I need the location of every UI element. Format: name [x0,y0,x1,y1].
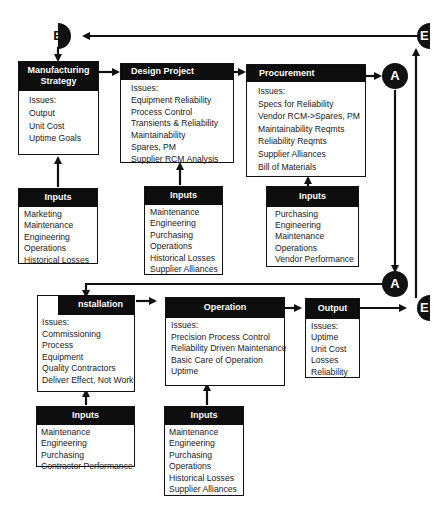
issue-item: Issues: [29,94,92,107]
issue-item: Transients & Reliability [131,118,227,130]
installation-issues: Issues: Commissioning Process Equipment … [38,315,134,389]
installation-title: nstallation [58,295,134,315]
connector-e-bottom-label: E [420,295,432,321]
issue-item: Vendor RCM->Spares, PM [258,110,359,123]
issue-item: Supplier Alliances [258,148,359,161]
input-item: Purchasing [169,450,241,461]
issue-item: Reliability [311,367,356,378]
input-item: Operations [275,243,355,254]
issue-item: Supplier RCM Analysis [131,154,227,166]
operation-box: Operation Issues: Precision Process Cont… [165,297,285,386]
input-item: Engineering [169,438,241,449]
input-item: Operations [24,243,93,254]
output-issues: Issues: Uptime Unit Cost Losses Reliabil… [306,319,359,380]
issue-item: Unit Cost [29,120,92,133]
design-project-inputs-box: Inputs Maintenance Engineering Purchasin… [144,186,223,275]
input-item: Supplier Alliances [169,484,241,495]
issue-item: Basic Care of Operation [171,355,281,367]
issue-item: Issues: [258,85,359,98]
issue-item: Issues: [171,320,281,332]
issue-item: Bill of Materials [258,161,359,174]
input-item: Maintenance [150,207,219,218]
installation-inputs-box: Inputs Maintenance Engineering Purchasin… [36,406,135,467]
issue-item: Specs for Reliability [258,98,359,111]
connector-e-top-label: E [420,23,432,49]
connector-a-mid-label: A [382,271,408,297]
inputs-list: Purchasing Engineering Maintenance Opera… [267,207,358,267]
inputs-title: Inputs [165,407,243,425]
connector-b-label: B [45,23,71,49]
input-item: Purchasing [150,230,219,241]
issue-item: Uptime [171,366,281,378]
output-title: Output [306,299,359,319]
input-item: Historical Losses [150,253,219,264]
manufacturing-strategy-issues: Issues: Output Unit Cost Uptime Goals [19,91,98,148]
issue-item: Issues: [131,83,227,95]
installation-box: nstallation Issues: Commissioning Proces… [37,295,135,392]
input-item: Engineering [24,232,93,243]
input-item: Marketing [24,209,93,220]
input-item: Engineering [41,438,132,449]
manufacturing-strategy-inputs-box: Inputs Marketing Maintenance Engineering… [18,188,98,264]
issue-item: Maintainability [131,130,227,142]
issue-item: Precision Process Control [171,332,281,344]
connector-a-top-label: A [382,63,408,89]
issue-item: Deliver Effect, Not Work [42,375,131,387]
inputs-title: Inputs [267,187,358,207]
operation-issues: Issues: Precision Process Control Reliab… [166,318,284,380]
issue-item: Maintainability Reqmts [258,123,359,136]
issue-item: Issues: [42,317,131,329]
input-item: Engineering [275,220,355,231]
input-item: Operations [169,461,241,472]
issue-item: Process [42,340,131,352]
operation-title: Operation [166,298,284,318]
output-box: Output Issues: Uptime Unit Cost Losses R… [305,298,360,378]
issue-item: Issues: [311,321,356,332]
input-item: Purchasing [41,450,132,461]
input-item: Contractor Performance [41,461,132,472]
input-item: Maintenance [275,231,355,242]
input-item: Supplier Alliances [150,264,219,275]
issue-item: Process Control [131,107,227,119]
issue-item: Uptime [311,332,356,343]
inputs-list: Maintenance Engineering Purchasing Opera… [165,425,243,497]
input-item: Engineering [150,218,219,229]
issue-item: Equipment Reliability [131,95,227,107]
procurement-inputs-box: Inputs Purchasing Engineering Maintenanc… [266,186,359,267]
inputs-title: Inputs [37,407,134,425]
issue-item: Unit Cost [311,344,356,355]
design-project-title: Design Project [121,64,233,80]
manufacturing-strategy-box: Manufacturing Strategy Issues: Output Un… [18,61,99,155]
procurement-title: Procurement [247,65,365,82]
issue-item: Reliability Driven Maintenance [171,343,281,355]
input-item: Maintenance [41,427,132,438]
input-item: Vendor Performance [275,254,355,265]
issue-item: Spares, PM [131,142,227,154]
issue-item: Commissioning [42,329,131,341]
inputs-list: Maintenance Engineering Purchasing Contr… [37,425,134,475]
inputs-list: Maintenance Engineering Purchasing Opera… [145,205,222,277]
procurement-issues: Issues: Specs for Reliability Vendor RCM… [247,82,365,176]
procurement-box: Procurement Issues: Specs for Reliabilit… [246,64,366,177]
issue-item: Reliability Reqmts [258,135,359,148]
issue-item: Equipment [42,352,131,364]
issue-item: Uptime Goals [29,132,92,145]
issue-item: Losses [311,355,356,366]
inputs-list: Marketing Maintenance Engineering Operat… [19,207,97,268]
input-item: Maintenance [169,427,241,438]
input-item: Operations [150,241,219,252]
operation-inputs-box: Inputs Maintenance Engineering Purchasin… [164,406,244,496]
manufacturing-strategy-title: Manufacturing Strategy [19,62,98,91]
issue-item: Quality Contractors [42,363,131,375]
issue-item: Output [29,107,92,120]
input-item: Historical Losses [169,473,241,484]
inputs-title: Inputs [19,189,97,207]
input-item: Purchasing [275,209,355,220]
design-project-box: Design Project Issues: Equipment Reliabi… [120,63,234,163]
design-project-issues: Issues: Equipment Reliability Process Co… [121,80,233,169]
input-item: Maintenance [24,220,93,231]
inputs-title: Inputs [145,187,222,205]
input-item: Historical Losses [24,255,93,266]
